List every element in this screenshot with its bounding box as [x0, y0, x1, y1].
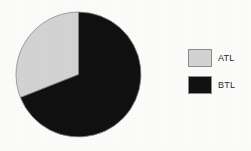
legend-swatch-atl — [188, 49, 212, 67]
pie-slices — [16, 12, 141, 137]
pie-chart — [15, 11, 142, 138]
legend-label-btl: BTL — [218, 80, 235, 90]
pie-chart-figure: ATL BTL — [0, 0, 251, 151]
pie-chart-svg — [15, 11, 142, 138]
chart-legend: ATL BTL — [188, 48, 248, 102]
legend-label-atl: ATL — [218, 53, 234, 63]
legend-item-btl[interactable]: BTL — [188, 75, 248, 95]
legend-swatch-btl — [188, 76, 212, 94]
legend-item-atl[interactable]: ATL — [188, 48, 248, 68]
